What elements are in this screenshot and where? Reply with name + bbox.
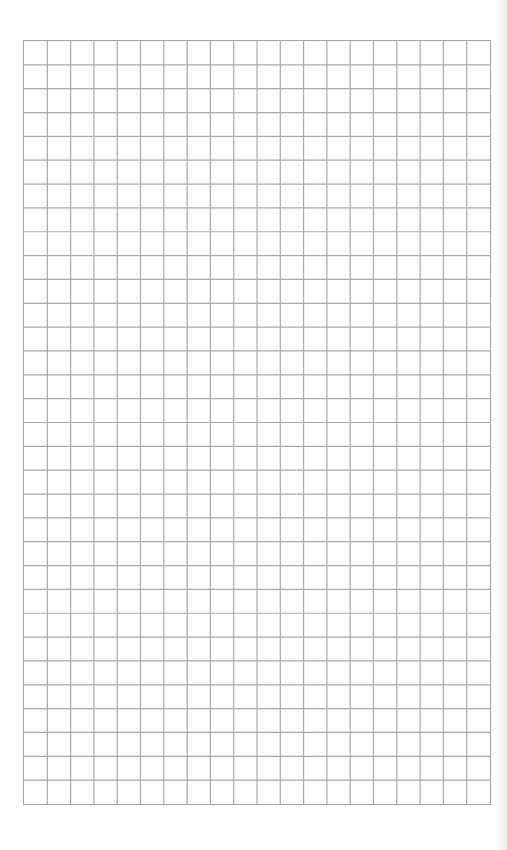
page-edge-shadow (495, 0, 507, 850)
grid-lines (24, 41, 490, 804)
grid (23, 40, 491, 805)
graph-paper-page (0, 0, 507, 850)
